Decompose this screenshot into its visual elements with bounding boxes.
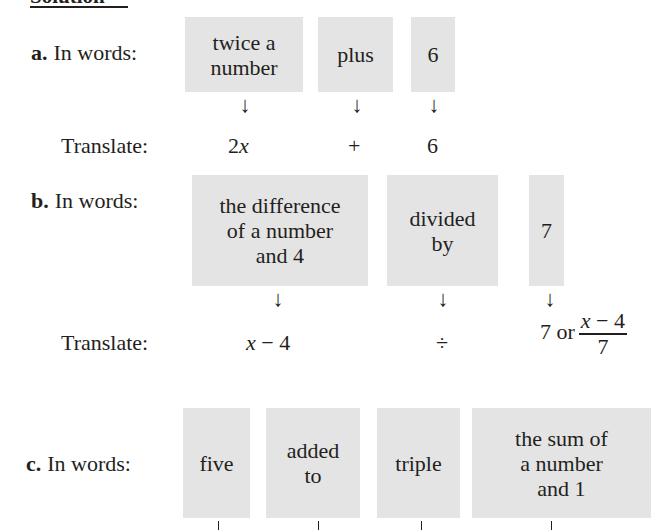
part-b-expr-seven-or-fraction: 7 or x − 4 7 [540,309,627,359]
part-a-translate-label: Translate: [61,133,148,159]
part-b-box-divided-by: divided by [387,175,498,286]
down-arrow-icon: ↓ [424,94,444,116]
down-arrow-icon [421,521,422,530]
down-arrow-icon: ↓ [268,288,288,310]
part-c-box-triple: triple [377,408,460,518]
part-a-expr-six: 6 [427,133,438,159]
part-b-words-label: b.In words: [31,188,138,214]
down-arrow-icon [551,521,552,530]
words-label: In words: [55,188,139,213]
variable: x [246,330,256,355]
fraction-denominator: 7 [597,335,608,359]
part-b-letter: b. [31,188,49,213]
fraction: x − 4 7 [579,309,627,359]
seven-or: 7 or [540,319,575,344]
fraction-numerator: x − 4 [579,309,627,333]
words-label: In words: [47,451,131,476]
down-arrow-icon: ↓ [540,288,560,310]
part-b-expr-divide: ÷ [436,330,448,356]
variable: x [239,133,249,158]
down-arrow-icon: ↓ [347,94,367,116]
down-arrow-icon: ↓ [235,94,255,116]
down-arrow-icon [218,521,219,530]
part-a-letter: a. [31,40,48,65]
heading-underline [30,6,128,8]
coefficient: 2 [228,133,239,158]
part-c-box-sum: the sum of a number and 1 [472,408,651,518]
part-b-box-difference: the difference of a number and 4 [192,175,368,286]
part-a-box-plus: plus [318,17,393,92]
part-a-expr-2x: 2x [228,133,249,159]
part-a-box-six: 6 [411,17,455,92]
down-arrow-icon: ↓ [433,288,453,310]
part-c-box-five: five [183,408,250,518]
part-a-expr-plus: + [348,133,360,159]
part-b-box-seven: 7 [529,175,564,286]
part-c-box-added-to: added to [266,408,360,518]
part-a-words-label: a.In words: [31,40,137,66]
part-b-translate-label: Translate: [61,330,148,356]
part-a-box-twice-a-number: twice a number [185,17,303,92]
part-c-words-label: c.In words: [26,451,131,477]
part-b-expr-x-minus-4: x − 4 [246,330,290,356]
part-c-letter: c. [26,451,41,476]
down-arrow-icon [318,521,319,530]
words-label: In words: [54,40,138,65]
